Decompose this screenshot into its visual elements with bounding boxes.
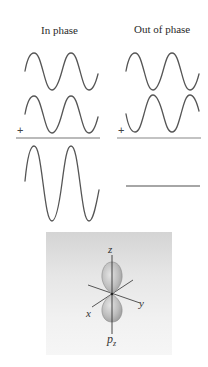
y-axis-label: y <box>139 297 144 309</box>
pz-label-subscript: z <box>113 339 116 348</box>
x-axis-label: x <box>86 307 91 319</box>
origin-point <box>111 293 114 296</box>
pz-orbital <box>0 0 208 367</box>
pz-orbital-label: pz <box>107 332 116 348</box>
z-axis-label: z <box>108 243 112 255</box>
